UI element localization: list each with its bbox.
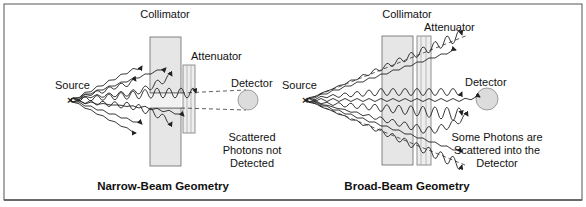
attenuator-label: Attenuator — [191, 50, 242, 62]
collimator-label: Collimator — [140, 8, 190, 20]
detector-label: Detector — [465, 76, 507, 88]
source-icon: × — [302, 94, 308, 106]
note-line-3: Detector — [476, 157, 518, 169]
source-label: Source — [282, 79, 317, 91]
note-line-1: Scattered — [228, 131, 275, 143]
collimator-label: Collimator — [382, 8, 432, 20]
attenuator-label: Attenuator — [424, 21, 475, 33]
collimator-top — [150, 37, 181, 93]
note-line-1: Some Photons are — [451, 131, 542, 143]
source-label: Source — [55, 79, 90, 91]
source-icon: × — [67, 94, 73, 106]
note-line-2: Scattered into the — [454, 144, 540, 156]
broad-beam-panel: × Collimator Attenuator Source Detector … — [282, 8, 543, 192]
note-line-3: Detected — [230, 157, 274, 169]
note-line-2: Photons not — [223, 144, 282, 156]
panel-title: Broad-Beam Geometry — [344, 180, 470, 192]
detector-icon — [476, 88, 498, 110]
detector-label: Detector — [231, 77, 273, 89]
detector-icon — [238, 90, 258, 110]
beam-geometry-diagram: × Collimator Attenuator Source Detector … — [0, 0, 586, 207]
attenuator — [183, 65, 195, 133]
panel-title: Narrow-Beam Geometry — [97, 180, 229, 192]
narrow-beam-panel: × Collimator Attenuator Source Detector … — [55, 8, 281, 192]
